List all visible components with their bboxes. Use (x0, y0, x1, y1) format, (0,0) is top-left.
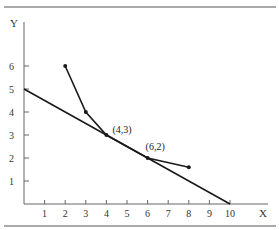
x-tick-label: 2 (63, 208, 68, 219)
y-axis-label: Y (10, 17, 18, 29)
x-tick-label: 4 (104, 208, 109, 219)
point-annotation: (4,3) (112, 124, 131, 136)
point-annotation: (6,2) (146, 141, 165, 153)
data-point (146, 156, 150, 160)
x-tick-label: 3 (83, 208, 88, 219)
y-tick-label: 1 (9, 176, 14, 187)
chart: Y X 123456 12345678910 (4,3)(6,2) (0, 0, 279, 230)
x-tick-label: 8 (186, 208, 191, 219)
x-ticks: 12345678910 (42, 200, 235, 219)
annotations: (4,3)(6,2) (112, 124, 164, 153)
data-point (84, 110, 88, 114)
y-tick-label: 3 (9, 130, 14, 141)
x-tick-label: 6 (145, 208, 150, 219)
data-point (187, 165, 191, 169)
data-point (104, 133, 108, 137)
y-tick-label: 2 (9, 153, 14, 164)
y-tick-label: 4 (9, 107, 14, 118)
x-tick-label: 1 (42, 208, 47, 219)
y-ticks: 123456 (9, 61, 29, 187)
x-tick-label: 5 (125, 208, 130, 219)
x-tick-label: 9 (207, 208, 212, 219)
x-tick-label: 10 (225, 208, 235, 219)
y-tick-label: 6 (9, 61, 14, 72)
curve-line (65, 66, 189, 167)
data-point (63, 64, 67, 68)
x-tick-label: 7 (166, 208, 171, 219)
y-tick-label: 5 (9, 84, 14, 95)
x-axis-label: X (259, 207, 267, 219)
axes: Y X (10, 17, 268, 219)
